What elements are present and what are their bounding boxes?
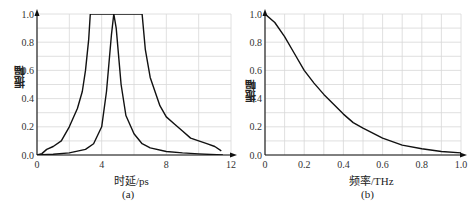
y-tick-label: 0.2	[22, 121, 35, 132]
x-tick-label: 0.6	[376, 159, 389, 170]
y-axis-arrow-icon	[35, 9, 40, 16]
x-axis-arrow-icon	[460, 153, 467, 158]
x-tick-label: 0	[263, 159, 268, 170]
x-tick-label: 0.2	[298, 159, 311, 170]
chart-a-xlabel: 时延/ps	[114, 172, 149, 188]
y-tick-label: 1.0	[250, 9, 263, 20]
chart-b: 0.00.20.40.60.81.000.20.40.60.81.0 振幅 频率…	[235, 0, 472, 209]
y-tick-label: 0.8	[250, 37, 263, 48]
y-tick-label: 0.0	[22, 150, 35, 161]
chart-b-xlabel: 频率/THz	[349, 172, 394, 188]
x-tick-label: 0.4	[337, 159, 350, 170]
y-tick-label: 0.6	[250, 65, 263, 76]
y-tick-label: 0.0	[250, 150, 263, 161]
y-tick-label: 0.8	[22, 37, 35, 48]
x-tick-label: 1.0	[455, 159, 468, 170]
chart-a-caption: (a)	[122, 188, 134, 200]
y-tick-label: 1.0	[22, 9, 35, 20]
x-tick-label: 8	[164, 159, 169, 170]
y-tick-label: 0.2	[250, 121, 263, 132]
x-tick-label: 0.8	[416, 159, 429, 170]
x-tick-label: 4	[99, 159, 104, 170]
chart-a-ylabel: 振幅	[12, 66, 28, 88]
chart-a: 0.00.20.40.60.81.004812 振幅 时延/ps (a)	[0, 0, 237, 209]
chart-b-ylabel: 振幅	[243, 80, 259, 102]
y-tick-label: 0.4	[22, 93, 35, 104]
x-tick-label: 0	[35, 159, 40, 170]
grid	[265, 14, 461, 155]
chart-b-caption: (b)	[361, 188, 374, 200]
